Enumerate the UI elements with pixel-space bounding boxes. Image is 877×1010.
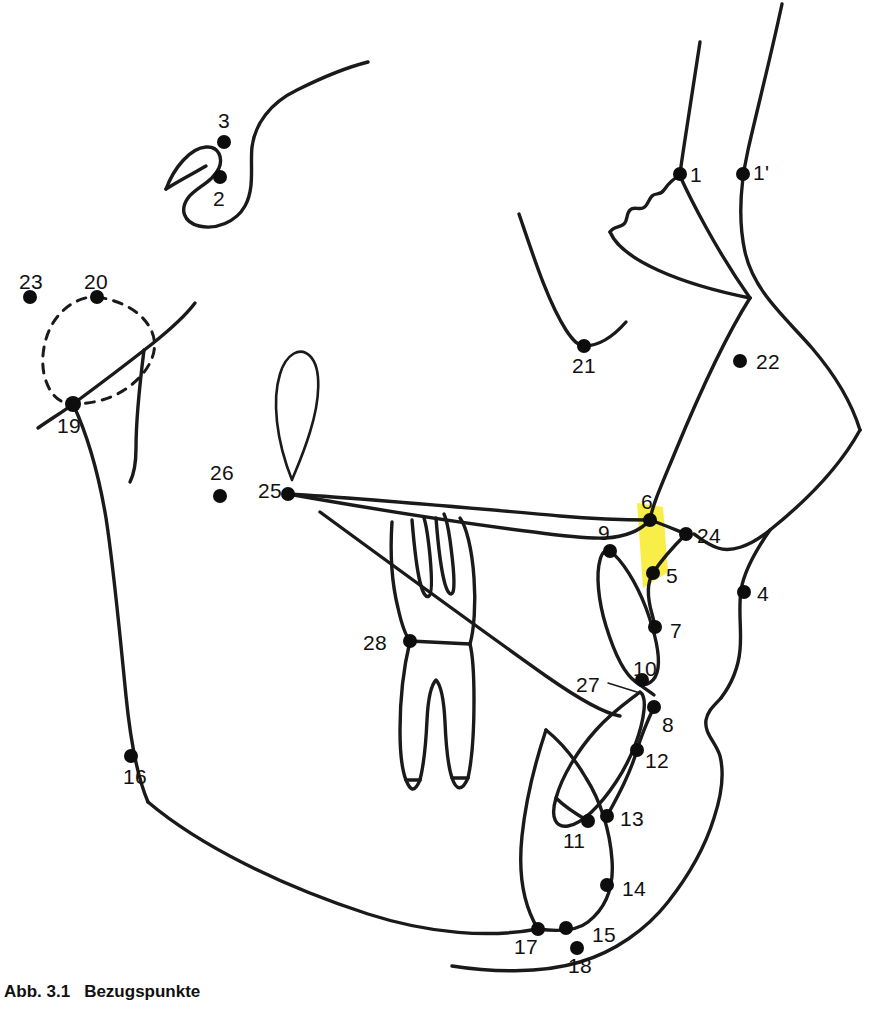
dot-17 (531, 922, 545, 936)
dot-28 (403, 634, 417, 648)
dot-14 (600, 878, 614, 892)
dot-12 (630, 743, 644, 757)
mandible-lower-border (148, 802, 538, 934)
caption-text: Bezugspunkte (84, 982, 200, 1001)
label-15: 15 (592, 924, 616, 945)
label-7: 7 (670, 620, 682, 641)
nasal-floor-line (288, 494, 650, 520)
label-12: 12 (645, 750, 669, 771)
caption-number: Abb. 3.1 (4, 982, 70, 1001)
figure-caption: Abb. 3.1Bezugspunkte (4, 982, 200, 1002)
dot-13 (600, 809, 614, 823)
label-23: 23 (19, 271, 43, 292)
uvula-shape (276, 352, 318, 480)
dot-22 (733, 354, 747, 368)
dot-16 (124, 749, 138, 763)
label-10: 10 (633, 658, 657, 679)
label-25: 25 (258, 480, 282, 501)
leader-line-27 (608, 683, 640, 693)
soft-tissue-subnasale-to-lip (721, 530, 770, 698)
dot-15 (559, 921, 573, 935)
uvula-outline (276, 352, 318, 480)
dot-25 (281, 487, 295, 501)
nasal-floor-frontal (610, 176, 680, 232)
molar-teeth-outline (391, 514, 475, 789)
dot-24 (679, 527, 693, 541)
label-16: 16 (123, 766, 147, 787)
facial-profile-outline (519, 4, 860, 520)
label-26: 26 (210, 462, 234, 483)
upper-molar-root-cleft-2 (436, 514, 454, 594)
orbital-rim-lower (584, 322, 626, 346)
cephalometric-figure: 1 1' 2 3 4 5 6 7 8 9 10 11 12 13 14 15 1… (0, 0, 877, 1010)
dot-1p (736, 167, 750, 181)
ramus-posterior-border (38, 303, 195, 428)
label-20: 20 (84, 271, 108, 292)
dot-18 (570, 941, 584, 955)
label-9: 9 (598, 522, 610, 543)
dot-8 (647, 700, 661, 714)
cephalometric-tracing-svg (0, 0, 877, 1010)
label-24: 24 (697, 525, 721, 546)
dot-21 (577, 339, 591, 353)
label-8: 8 (662, 714, 674, 735)
dot-26 (213, 489, 227, 503)
dot-5 (646, 566, 660, 580)
label-27: 27 (576, 674, 600, 695)
label-21: 21 (572, 355, 596, 376)
lower-molar-crown-and-roots (400, 641, 474, 780)
label-18: 18 (568, 955, 592, 976)
upper-molar-root-cleft-1 (412, 518, 431, 596)
label-11: 11 (563, 830, 585, 851)
orbital-floor-curve (519, 214, 584, 346)
dot-11 (581, 814, 595, 828)
dot-6 (643, 513, 657, 527)
dot-7 (648, 620, 662, 634)
dot-3 (217, 135, 231, 149)
label-22: 22 (756, 351, 780, 372)
dot-4 (737, 585, 751, 599)
label-2: 2 (213, 188, 225, 209)
nasal-bone-profile (680, 42, 700, 176)
label-13: 13 (620, 808, 644, 829)
label-4: 4 (757, 583, 769, 604)
dot-1 (673, 167, 687, 181)
symphysis-lingual (521, 730, 546, 929)
hard-palate-line (288, 494, 650, 538)
label-1: 1 (690, 164, 702, 185)
condyle-dashed-outline (43, 297, 155, 404)
maxilla-outline (288, 494, 686, 716)
nasal-tip-to-base (680, 176, 750, 298)
pterygomaxillary-descent (650, 298, 750, 520)
label-17: 17 (514, 936, 538, 957)
mandible-outline (38, 303, 612, 934)
label-1-prime: 1' (753, 162, 769, 183)
condyle-head-dashed (43, 297, 155, 404)
dot-9 (603, 544, 617, 558)
label-28: 28 (363, 632, 387, 653)
label-5: 5 (666, 565, 678, 586)
sella-turcica-outline (166, 62, 368, 227)
dot-19 (65, 396, 81, 412)
sella-curve (166, 62, 368, 227)
label-6: 6 (641, 491, 653, 512)
label-3: 3 (218, 110, 230, 131)
label-19: 19 (57, 415, 81, 436)
sigmoid-notch-line (130, 350, 144, 482)
label-14: 14 (622, 878, 646, 899)
dot-2 (213, 170, 227, 184)
